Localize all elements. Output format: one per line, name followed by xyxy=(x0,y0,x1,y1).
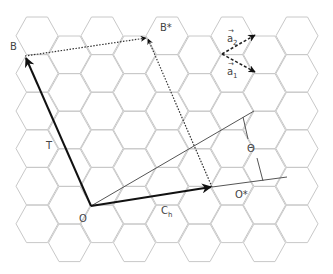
svg-text:C: C xyxy=(161,205,168,216)
svg-text:2: 2 xyxy=(233,39,237,47)
label-O: O xyxy=(79,213,87,224)
chiral-vector-Ch xyxy=(91,187,211,206)
label-a1: → a 1 xyxy=(227,60,237,80)
label-B: B xyxy=(10,41,17,52)
label-B-star: B* xyxy=(160,22,172,33)
svg-text:h: h xyxy=(168,211,172,219)
b-to-bstar-arrow xyxy=(25,38,146,56)
lattice-diagram: B B* T O O* Θ C h → a 2 → a 1 xyxy=(0,0,333,274)
label-theta: Θ xyxy=(247,143,255,154)
theta-marker-lower xyxy=(257,158,263,181)
svg-text:1: 1 xyxy=(233,72,237,80)
translation-vector-T xyxy=(26,58,91,206)
label-T: T xyxy=(45,140,53,151)
label-a2: → a 2 xyxy=(227,27,237,47)
label-O-star: O* xyxy=(235,189,248,200)
label-Ch: C h xyxy=(161,205,172,219)
